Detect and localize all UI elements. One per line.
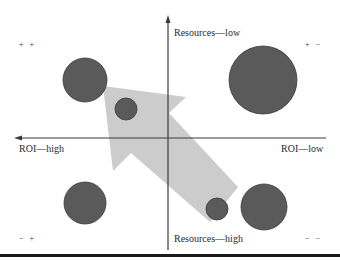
quadrant-sign-top-left: + + [19, 41, 36, 49]
horizontal-axis-arrowhead-icon [14, 136, 22, 141]
axis-label-resources-low: Resources—low [174, 28, 240, 38]
quadrant-sign-bottom-left: − + [19, 235, 36, 243]
axis-label-roi-low: ROI—low [281, 144, 323, 154]
vertical-axis-arrowhead-icon [166, 15, 171, 23]
axis-label-roi-high: ROI—high [19, 144, 64, 154]
bottom-rule [0, 254, 340, 257]
quadrant-sign-top-right: + − [305, 41, 322, 49]
bubble-top-left [115, 98, 137, 120]
bubble-top-right [229, 46, 297, 114]
axis-label-resources-high: Resources—high [174, 234, 243, 244]
bubble-bottom-right [206, 198, 228, 220]
bubble-bottom-right [241, 184, 287, 230]
quadrant-sign-bottom-right: − − [305, 235, 322, 243]
quadrant-diagram [0, 0, 340, 261]
bubble-top-left [63, 58, 107, 102]
bubble-bottom-left [64, 182, 106, 224]
